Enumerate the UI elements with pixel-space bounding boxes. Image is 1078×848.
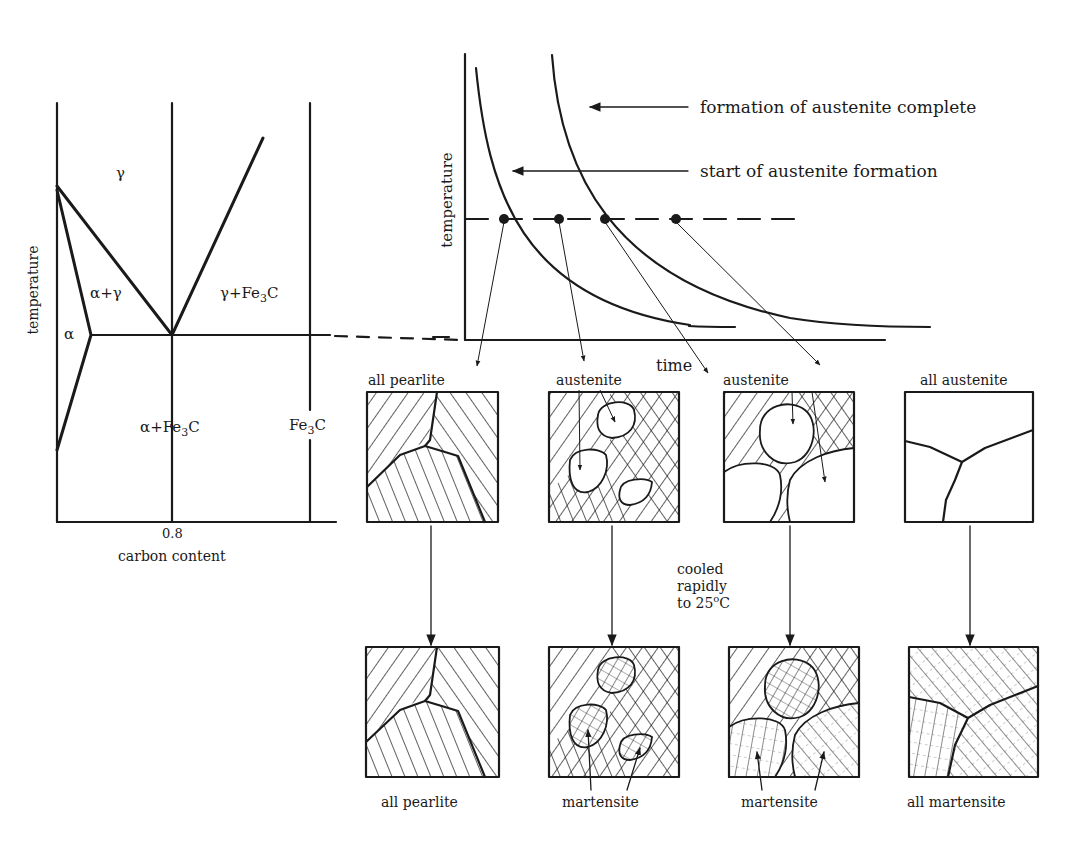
label-all-pearlite-top: all pearlite	[368, 372, 445, 388]
cooling-note: cooled rapidly to 25oC	[677, 561, 730, 611]
region-fe3c: Fe3C	[289, 416, 326, 437]
x-axis-label: time	[656, 356, 692, 375]
label-martensite-2: martensite	[741, 794, 818, 810]
steel-heat-treatment-diagram: γ α+γ γ+Fe3C α α+Fe3C Fe3C 0.8 carbon co…	[0, 0, 1078, 848]
micrograph-partial-martensite-2	[729, 647, 859, 790]
region-alpha: α	[64, 325, 74, 343]
austenitization-diagram: formation of austenite complete start of…	[433, 54, 976, 375]
x-axis-label: carbon content	[118, 548, 226, 564]
label-austenite-1: austenite	[556, 372, 622, 388]
micrograph-all-pearlite-heated	[367, 392, 498, 522]
micrograph-all-pearlite-cooled	[366, 647, 499, 777]
region-gamma: γ	[116, 164, 125, 182]
svg-text:cooled: cooled	[677, 561, 723, 577]
x-tick-0.8: 0.8	[162, 526, 183, 541]
region-gamma-fe3c: γ+Fe3C	[220, 284, 278, 305]
micrograph-all-martensite	[909, 647, 1038, 777]
connector-1	[477, 222, 504, 366]
label-all-austenite: all austenite	[920, 372, 1008, 388]
micrograph-austenite-partial-1	[549, 390, 679, 522]
region-alpha-fe3c: α+Fe3C	[140, 418, 200, 439]
heated-micrographs: all pearlite austenite austenite all aus…	[367, 372, 1033, 522]
label-all-pearlite-bottom: all pearlite	[381, 794, 458, 810]
alpha-boundary	[57, 190, 91, 450]
region-alpha-gamma: α+γ	[90, 284, 122, 302]
y-axis-label: temperature	[25, 245, 41, 334]
acm-line	[172, 138, 263, 335]
label-all-martensite: all martensite	[907, 794, 1006, 810]
label-martensite-1: martensite	[562, 794, 639, 810]
micrograph-partial-martensite-1	[549, 647, 679, 790]
svg-text:rapidly: rapidly	[677, 578, 727, 594]
label-complete: formation of austenite complete	[700, 97, 976, 117]
micrograph-all-austenite	[905, 392, 1033, 522]
cooled-micrographs: all pearlite martensite martensite all m…	[366, 647, 1038, 810]
connector-4	[676, 222, 820, 365]
label-austenite-2: austenite	[723, 372, 789, 388]
micrograph-austenite-partial-2	[724, 392, 854, 522]
y-axis-label: temperature	[438, 152, 456, 248]
label-start: start of austenite formation	[700, 161, 938, 181]
svg-text:to 25oC: to 25oC	[677, 593, 730, 611]
connector-3	[605, 222, 708, 373]
